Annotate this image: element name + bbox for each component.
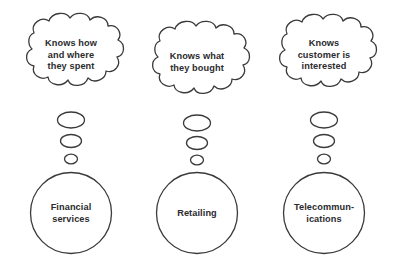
circle-label-line: Telecommun- <box>274 202 374 214</box>
thought-bubble-large <box>184 115 211 131</box>
cloud-label-line: Knows how <box>18 38 124 50</box>
cloud-label-line: Knows <box>271 38 377 50</box>
cloud-label-line: they spent <box>18 61 124 73</box>
thought-bubble-small <box>191 155 204 165</box>
cloud-label-retailing: Knows what they bought <box>144 51 250 74</box>
circle-label-telecommunications: Telecommun- ications <box>274 202 374 225</box>
thought-bubble-large <box>311 112 338 128</box>
circle-label-line: Financial <box>21 202 121 214</box>
circle-label-retailing: Retailing <box>147 208 247 220</box>
cloud-label-line: and where <box>18 50 124 62</box>
thought-bubble-small <box>318 154 331 164</box>
circle-label-line: services <box>21 214 121 226</box>
diagram-canvas: Knows how and where they spent Financial… <box>0 0 394 274</box>
cloud-label-telecommunications: Knows customer is interested <box>271 38 377 73</box>
circle-label-line: ications <box>274 214 374 226</box>
cloud-label-line: interested <box>271 61 377 73</box>
thought-bubble-medium <box>187 137 208 150</box>
cloud-label-financial-services: Knows how and where they spent <box>18 38 124 73</box>
cloud-label-line: they bought <box>144 63 250 75</box>
thought-bubble-small <box>65 154 78 164</box>
circle-label-line: Retailing <box>147 208 247 220</box>
circle-label-financial-services: Financial services <box>21 202 121 225</box>
cloud-label-line: customer is <box>271 50 377 62</box>
thought-bubble-medium <box>314 135 335 148</box>
thought-bubble-large <box>58 112 85 128</box>
thought-bubble-medium <box>61 135 82 148</box>
cloud-label-line: Knows what <box>144 51 250 63</box>
